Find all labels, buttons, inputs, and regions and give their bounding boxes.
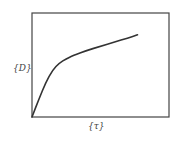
data-line — [32, 35, 137, 117]
x-axis-label: {τ} — [88, 121, 104, 131]
y-axis-label: {D} — [13, 63, 32, 73]
plot-frame — [32, 13, 169, 117]
